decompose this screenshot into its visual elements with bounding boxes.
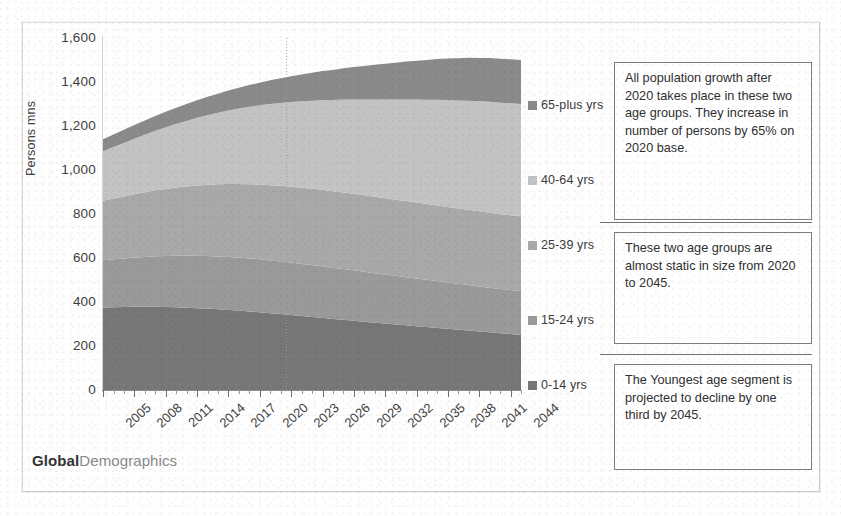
x-minor-tick <box>343 390 344 394</box>
x-axis-tick-labels: 2005200820112014201720202023202620292032… <box>0 400 560 460</box>
y-axis-title: Persons mns <box>24 101 38 176</box>
x-minor-tick <box>500 390 501 394</box>
y-tick-label: 1,400 <box>40 75 96 89</box>
x-tick-label: 2044 <box>530 400 562 430</box>
x-minor-tick <box>437 390 438 394</box>
x-axis-ticks <box>103 390 521 396</box>
x-tick-label: 2029 <box>373 400 405 430</box>
x-minor-tick <box>208 390 209 394</box>
legend-item-65-plus-yrs[interactable]: 65-plus yrs <box>528 98 603 112</box>
x-minor-tick <box>364 390 365 394</box>
x-major-tick <box>417 390 418 397</box>
x-minor-tick <box>114 390 115 394</box>
callout-separator-1 <box>600 222 812 223</box>
x-major-tick <box>448 390 449 397</box>
legend-label: 0-14 yrs <box>541 378 587 392</box>
y-tick-label: 1,000 <box>40 163 96 177</box>
year-marker-2023 <box>286 38 287 390</box>
x-major-tick <box>103 390 104 397</box>
x-major-tick <box>260 390 261 397</box>
x-minor-tick <box>521 390 522 394</box>
x-minor-tick <box>312 390 313 394</box>
x-minor-tick <box>281 390 282 394</box>
x-major-tick <box>479 390 480 397</box>
legend-item-15-24-yrs[interactable]: 15-24 yrs <box>528 313 594 327</box>
x-tick-label: 2008 <box>154 400 186 430</box>
x-major-tick <box>511 390 512 397</box>
callout-static-note: These two age groups are almost static i… <box>614 232 812 344</box>
x-minor-tick <box>396 390 397 394</box>
x-tick-label: 2026 <box>342 400 374 430</box>
callout-static-text: These two age groups are almost static i… <box>625 241 796 290</box>
brand-light-text: Demographics <box>79 452 177 469</box>
x-major-tick <box>197 390 198 397</box>
x-minor-tick <box>145 390 146 394</box>
x-tick-label: 2005 <box>122 400 154 430</box>
x-minor-tick <box>302 390 303 394</box>
x-tick-label: 2032 <box>405 400 437 430</box>
legend-swatch-icon <box>528 176 537 185</box>
callout-decline-note: The Youngest age segment is projected to… <box>614 364 812 470</box>
chart-legend: 65-plus yrs40-64 yrs25-39 yrs15-24 yrs0-… <box>528 38 610 398</box>
x-minor-tick <box>249 390 250 394</box>
legend-label: 40-64 yrs <box>541 173 594 187</box>
callout-decline-text: The Youngest age segment is projected to… <box>625 373 792 422</box>
legend-label: 65-plus yrs <box>541 98 603 112</box>
x-tick-label: 2038 <box>467 400 499 430</box>
legend-label: 25-39 yrs <box>541 238 594 252</box>
stacked-area-plot <box>103 38 521 390</box>
callout-growth-text: All population growth after 2020 takes p… <box>625 71 794 155</box>
x-minor-tick <box>333 390 334 394</box>
legend-swatch-icon <box>528 241 537 250</box>
callout-separator-2 <box>600 354 812 355</box>
x-tick-label: 2011 <box>185 400 216 430</box>
x-major-tick <box>354 390 355 397</box>
x-tick-label: 2041 <box>499 400 531 430</box>
legend-item-40-64-yrs[interactable]: 40-64 yrs <box>528 173 594 187</box>
x-tick-label: 2017 <box>248 400 280 430</box>
brand-bold-text: Global <box>32 452 79 469</box>
y-tick-label: 0 <box>40 383 96 397</box>
y-tick-label: 600 <box>40 251 96 265</box>
legend-item-25-39-yrs[interactable]: 25-39 yrs <box>528 238 594 252</box>
legend-label: 15-24 yrs <box>541 313 594 327</box>
x-tick-label: 2020 <box>279 400 311 430</box>
x-minor-tick <box>270 390 271 394</box>
x-tick-label: 2023 <box>311 400 343 430</box>
x-major-tick <box>291 390 292 397</box>
x-major-tick <box>166 390 167 397</box>
x-minor-tick <box>469 390 470 394</box>
brand-logo: GlobalDemographics <box>32 452 177 469</box>
legend-swatch-icon <box>528 316 537 325</box>
x-minor-tick <box>155 390 156 394</box>
x-minor-tick <box>458 390 459 394</box>
x-minor-tick <box>490 390 491 394</box>
x-minor-tick <box>375 390 376 394</box>
x-tick-label: 2014 <box>216 400 248 430</box>
legend-item-0-14-yrs[interactable]: 0-14 yrs <box>528 378 587 392</box>
x-minor-tick <box>239 390 240 394</box>
x-tick-label: 2035 <box>436 400 468 430</box>
legend-swatch-icon <box>528 381 537 390</box>
x-minor-tick <box>176 390 177 394</box>
y-tick-label: 1,600 <box>40 31 96 45</box>
callout-growth-note: All population growth after 2020 takes p… <box>614 62 812 220</box>
x-major-tick <box>228 390 229 397</box>
x-minor-tick <box>124 390 125 394</box>
y-tick-label: 200 <box>40 339 96 353</box>
x-major-tick <box>385 390 386 397</box>
legend-swatch-icon <box>528 101 537 110</box>
x-minor-tick <box>406 390 407 394</box>
y-tick-label: 800 <box>40 207 96 221</box>
stacked-area-svg <box>103 38 521 390</box>
x-minor-tick <box>187 390 188 394</box>
y-tick-label: 400 <box>40 295 96 309</box>
x-minor-tick <box>427 390 428 394</box>
y-tick-label: 1,200 <box>40 119 96 133</box>
x-minor-tick <box>218 390 219 394</box>
x-major-tick <box>134 390 135 397</box>
x-major-tick <box>323 390 324 397</box>
